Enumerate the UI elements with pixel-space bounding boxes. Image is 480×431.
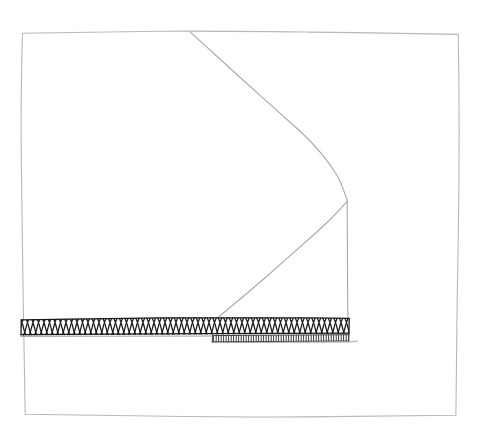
secondary-hatched-strip bbox=[209, 333, 353, 345]
primary-hatched-band bbox=[18, 314, 354, 338]
lower-fold-edge bbox=[214, 201, 347, 321]
fold-lines-group bbox=[190, 32, 348, 322]
upper-fold-edge bbox=[190, 32, 347, 200]
sketch-canvas: Hand-drawn sectional sketch bbox=[0, 0, 480, 431]
vertical-fold-edge bbox=[347, 200, 348, 322]
outer-border-group bbox=[21, 31, 459, 417]
outer-border-rectangle bbox=[21, 31, 459, 417]
sketch-drawing bbox=[0, 0, 480, 431]
